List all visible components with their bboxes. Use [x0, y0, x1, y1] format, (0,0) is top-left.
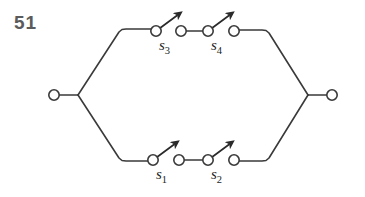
- switch-pivot-node-s3[interactable]: [151, 26, 161, 36]
- switch-label-s2: s2: [211, 166, 222, 185]
- switch-pivot-node-s1[interactable]: [148, 155, 158, 165]
- switch-pivot-node-s4[interactable]: [203, 26, 213, 36]
- wire-left-fork-upper: [78, 29, 151, 95]
- switch-label-s1-subscript: 1: [162, 174, 167, 185]
- switch-label-s4: s4: [211, 37, 223, 56]
- switch-blade-s4[interactable]: [212, 16, 229, 29]
- figure-container: 51: [0, 0, 365, 197]
- terminal-node-left[interactable]: [49, 90, 59, 100]
- switch-contact-node-s3[interactable]: [176, 26, 186, 36]
- switch-contact-node-s2[interactable]: [229, 155, 239, 165]
- node-group: [49, 26, 337, 165]
- wire-left-fork-lower: [78, 95, 148, 161]
- switch-label-s4-subscript: 4: [217, 45, 223, 56]
- switch-pivot-node-s2[interactable]: [203, 155, 213, 165]
- switch-contact-node-s1[interactable]: [174, 155, 184, 165]
- switch-label-s3: s3: [159, 37, 170, 56]
- switch-label-s3-subscript: 3: [165, 45, 170, 56]
- terminal-node-right[interactable]: [327, 90, 337, 100]
- wire-right-fork-upper: [239, 30, 308, 95]
- switch-contact-node-s4[interactable]: [229, 26, 239, 36]
- circuit-diagram: s3 s4 s1 s2: [0, 0, 365, 197]
- switch-label-s1: s1: [156, 166, 167, 185]
- switch-blade-s3[interactable]: [160, 16, 177, 29]
- switch-blade-s2[interactable]: [212, 145, 229, 158]
- switch-blade-s1[interactable]: [157, 145, 174, 158]
- switch-blade-group: [157, 16, 229, 158]
- wire-right-fork-lower: [239, 95, 308, 161]
- wire-group: [59, 29, 327, 161]
- switch-label-s2-subscript: 2: [217, 174, 222, 185]
